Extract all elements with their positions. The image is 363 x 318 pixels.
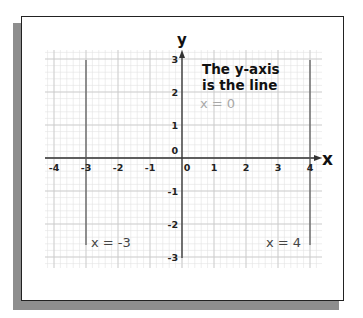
y-tick-label: 3 bbox=[171, 54, 178, 65]
y-tick-label: -2 bbox=[167, 219, 178, 230]
y-tick-label: 2 bbox=[171, 87, 178, 98]
coordinate-plane: -4-3-2-1012343210-1-2-3 y x The y-axis i… bbox=[0, 0, 363, 318]
caption-line-2: is the line bbox=[202, 77, 277, 93]
x-tick-label: 0 bbox=[184, 162, 191, 173]
y-axis-arrow-icon bbox=[179, 50, 185, 58]
y-tick-label: 0 bbox=[171, 145, 178, 156]
line-label-x-4: x = 4 bbox=[266, 235, 301, 250]
x-tick-label: -3 bbox=[81, 162, 92, 173]
y-tick-label: 1 bbox=[171, 120, 178, 131]
x-tick-label: -4 bbox=[49, 162, 60, 173]
x-tick-label: 3 bbox=[275, 162, 282, 173]
x-tick-label: 4 bbox=[307, 162, 314, 173]
diagram-stage: -4-3-2-1012343210-1-2-3 y x The y-axis i… bbox=[0, 0, 363, 318]
x-tick-label: -1 bbox=[145, 162, 156, 173]
x-tick-label: 1 bbox=[211, 162, 218, 173]
line-label-x-neg3: x = -3 bbox=[91, 235, 131, 250]
y-tick-label: -3 bbox=[167, 252, 178, 263]
x-tick-label: -2 bbox=[113, 162, 124, 173]
caption-line-1: The y-axis bbox=[202, 61, 280, 77]
x-axis-label: x bbox=[322, 149, 333, 169]
x-tick-label: 2 bbox=[243, 162, 250, 173]
y-tick-label: -1 bbox=[167, 186, 178, 197]
x-axis-arrow-icon bbox=[314, 155, 322, 161]
y-axis-label: y bbox=[177, 31, 187, 49]
y-axis-equation: x = 0 bbox=[200, 96, 235, 111]
